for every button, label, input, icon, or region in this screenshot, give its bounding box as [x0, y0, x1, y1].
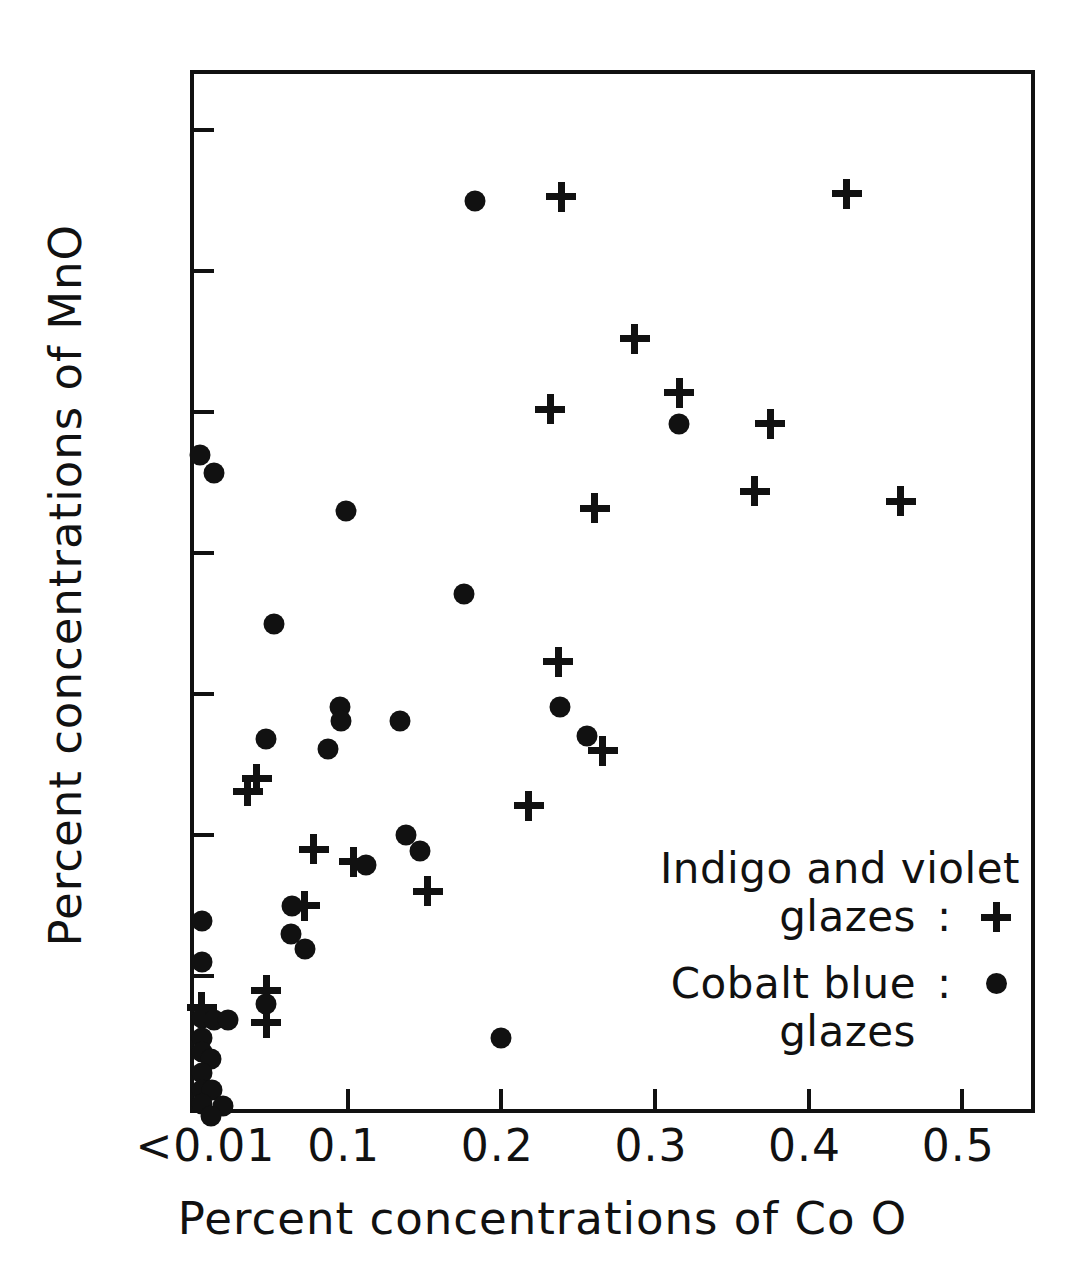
data-point-plus	[339, 847, 369, 877]
y-axis-tick	[194, 269, 214, 273]
data-point-dot	[491, 1028, 512, 1049]
data-point-dot	[336, 500, 357, 521]
data-point-plus	[543, 647, 573, 677]
legend-row-cobalt-line1: Cobalt blue :	[620, 960, 1020, 1008]
y-axis-tick	[194, 692, 214, 696]
data-point-plus	[290, 891, 320, 921]
x-axis-tick-label: 0.1	[307, 1120, 380, 1171]
y-axis-tick	[194, 128, 214, 132]
data-point-plus	[546, 182, 576, 212]
data-point-dot	[294, 939, 315, 960]
data-point-plus	[664, 378, 694, 408]
data-point-plus	[620, 324, 650, 354]
x-axis-tick-label: 0.2	[461, 1120, 534, 1171]
y-axis-tick	[194, 974, 214, 978]
data-point-plus	[535, 394, 565, 424]
data-point-dot	[191, 911, 212, 932]
data-point-dot	[256, 729, 277, 750]
legend-symbol-plus	[972, 895, 1020, 939]
plus-icon	[981, 902, 1011, 932]
x-axis-tick	[499, 1089, 503, 1109]
data-point-dot	[317, 739, 338, 760]
legend-row-indigo-line2: glazes :	[620, 893, 1020, 941]
x-axis-tick-label: 0.3	[614, 1120, 687, 1171]
x-axis-tick	[960, 1089, 964, 1109]
legend-row-indigo-line1: Indigo and violet	[620, 845, 1020, 893]
legend-row-cobalt-line2: glazes	[620, 1008, 1020, 1056]
data-point-dot	[331, 710, 352, 731]
x-axis-tick	[807, 1089, 811, 1109]
x-axis-tick	[653, 1089, 657, 1109]
data-point-plus	[514, 791, 544, 821]
data-point-dot	[409, 840, 430, 861]
data-point-dot	[669, 413, 690, 434]
data-point-plus	[740, 476, 770, 506]
legend-label-cobalt-line2: glazes	[779, 1008, 916, 1056]
data-point-plus	[233, 776, 263, 806]
x-axis-title: Percent concentrations of Co O	[0, 1192, 1085, 1245]
scatter-plot-figure: Percent concentrations of Co O Percent c…	[0, 0, 1085, 1288]
data-point-plus	[251, 1008, 281, 1038]
data-point-dot	[217, 1009, 238, 1030]
data-point-dot	[190, 444, 211, 465]
x-axis-tick-label: <0.01	[135, 1120, 275, 1171]
data-point-plus	[413, 876, 443, 906]
data-point-plus	[299, 834, 329, 864]
data-point-plus	[580, 493, 610, 523]
legend-label-indigo-line2: glazes	[779, 893, 916, 941]
legend-symbol-spacer	[972, 1010, 1020, 1054]
chart-legend: Indigo and violet glazes : Cobalt blue :…	[620, 845, 1020, 1056]
data-point-plus	[755, 409, 785, 439]
y-axis-title: Percent concentrations of MnO	[39, 227, 92, 947]
x-axis-tick	[346, 1089, 350, 1109]
data-point-plus	[832, 179, 862, 209]
data-point-plus	[886, 486, 916, 516]
legend-colon-indigo: :	[916, 893, 972, 941]
data-point-dot	[203, 462, 224, 483]
legend-label-indigo-line1: Indigo and violet	[660, 845, 1020, 893]
data-point-plus	[187, 992, 217, 1022]
data-point-dot	[191, 951, 212, 972]
y-axis-tick	[194, 833, 214, 837]
y-axis-tick	[194, 551, 214, 555]
data-point-plus	[588, 736, 618, 766]
data-point-plus	[251, 975, 281, 1005]
x-axis-tick-label: 0.5	[922, 1120, 995, 1171]
data-point-dot	[465, 190, 486, 211]
legend-label-cobalt-line1: Cobalt blue	[671, 960, 916, 1008]
legend-colon-cobalt: :	[916, 960, 972, 1008]
data-point-dot	[549, 696, 570, 717]
data-point-dot	[263, 613, 284, 634]
data-point-dot	[389, 710, 410, 731]
x-axis-tick-label: 0.4	[768, 1120, 841, 1171]
legend-symbol-dot	[972, 962, 1020, 1006]
dot-icon	[986, 973, 1007, 994]
y-axis-tick	[194, 410, 214, 414]
data-point-dot	[454, 584, 475, 605]
